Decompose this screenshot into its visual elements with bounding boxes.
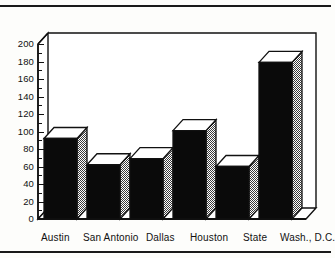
bar-chart: 200 180 160 140 120 100 80 60 40 20 0 (0, 8, 331, 250)
x-tick-label-houston: Houston (190, 231, 228, 245)
bar-series (0, 8, 331, 250)
bar (87, 154, 130, 219)
x-tick-label-state: State (243, 231, 267, 245)
x-tick-label-austin: Austin (41, 231, 70, 245)
bottom-divider-rule (0, 251, 331, 253)
x-axis-labels: Austin San Antonio Dallas Houston State … (0, 231, 331, 247)
bar (130, 148, 173, 219)
x-tick-label-wash-dc: Wash., D.C. (280, 231, 335, 245)
x-tick-label-san-antonio: San Antonio (83, 231, 139, 245)
x-tick-label-dallas: Dallas (146, 231, 175, 245)
bar (44, 128, 87, 220)
bar (173, 120, 216, 219)
bar (216, 156, 259, 220)
top-divider-rule (0, 5, 331, 7)
bar (259, 51, 302, 219)
